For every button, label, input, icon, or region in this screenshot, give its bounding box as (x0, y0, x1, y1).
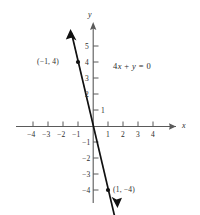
y-tick-label-neg2: −2 (82, 155, 91, 163)
x-tick-label-1: 1 (106, 131, 110, 139)
coordinate-plane (0, 0, 200, 215)
y-tick-label-neg3: −3 (82, 171, 91, 179)
y-tick-label-neg4: −4 (82, 187, 91, 195)
x-tick-label-2: 2 (121, 131, 125, 139)
x-tick-label-3: 3 (136, 131, 140, 139)
y-axis-label: y (88, 11, 92, 19)
y-tick-label-2: 2 (85, 91, 89, 99)
y-tick-label-1: 1 (101, 107, 105, 115)
y-axis (90, 22, 99, 203)
point-label-upper: (−1, 4) (37, 58, 59, 66)
x-tick-label-neg3: −3 (42, 131, 51, 139)
y-tick-label-5: 5 (85, 43, 89, 51)
y-tick-label-4: 4 (85, 59, 89, 67)
x-axis-label: x (182, 122, 186, 130)
x-tick-label-4: 4 (151, 131, 155, 139)
data-point-lower (106, 188, 110, 192)
graph-figure: −4 −3 −2 −1 1 2 3 4 1 2 3 4 5 −1 −2 −3 −… (0, 0, 200, 215)
equation-operator: + (122, 61, 132, 71)
y-tick-label-neg1: −1 (82, 139, 91, 147)
x-tick-label-neg2: −2 (57, 131, 66, 139)
y-tick-label-3: 3 (85, 75, 89, 83)
point-label-lower: (1, −4) (113, 186, 135, 194)
equation-annotation: 4x + y = 0 (113, 62, 151, 71)
x-tick-label-neg1: −1 (72, 131, 81, 139)
x-tick-label-neg4: −4 (27, 131, 36, 139)
data-point-upper (76, 60, 80, 64)
equation-right-side: = 0 (136, 61, 151, 71)
x-axis (16, 122, 176, 130)
y-axis-ticks (93, 46, 98, 190)
